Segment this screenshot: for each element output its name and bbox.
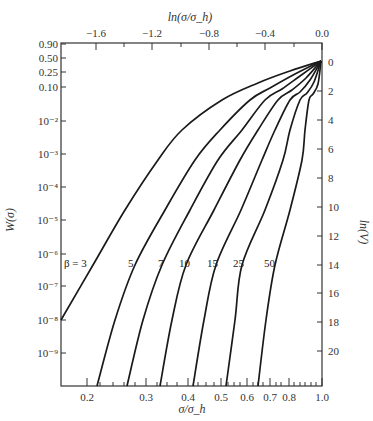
y-right-tick-label: 0 bbox=[328, 56, 334, 68]
top-axis-title: ln(σ/σ_h) bbox=[168, 10, 213, 24]
curve-beta-7 bbox=[127, 61, 321, 386]
y-right-tick-label: 20 bbox=[328, 345, 340, 357]
x-tick-label: 0.6 bbox=[240, 391, 254, 403]
y-tick-label: 0.90 bbox=[39, 38, 59, 50]
curve-label: 25 bbox=[233, 257, 245, 269]
plot-frame bbox=[61, 43, 322, 386]
x-tick-label: 0.7 bbox=[263, 391, 277, 403]
y-tick-label: 0.25 bbox=[39, 66, 59, 78]
curve-beta-5 bbox=[97, 61, 321, 386]
y-tick-label: 10⁻³ bbox=[38, 148, 59, 160]
curve-label: 50 bbox=[264, 257, 276, 269]
plot-border bbox=[61, 43, 322, 386]
curve-beta-3 bbox=[61, 61, 321, 320]
x-top-tick-label: −1.2 bbox=[142, 27, 162, 39]
axis-labels: 0.20.30.40.50.60.70.81.0−1.6−1.2−0.8−0.4… bbox=[37, 27, 339, 403]
y-tick-label: 0.10 bbox=[39, 81, 59, 93]
curve-label: 7 bbox=[158, 257, 164, 269]
curve-label: 5 bbox=[128, 257, 134, 269]
y-tick-label: 10⁻⁶ bbox=[37, 248, 58, 260]
y-tick-label: 10⁻² bbox=[38, 115, 59, 127]
weibull-strength-chart: 0.20.30.40.50.60.70.81.0−1.6−1.2−0.8−0.4… bbox=[0, 0, 373, 421]
y-tick-label: 10⁻⁵ bbox=[37, 214, 58, 226]
x-tick-label: 0.5 bbox=[214, 391, 228, 403]
y-right-tick-label: 18 bbox=[328, 316, 340, 328]
x-top-tick-label: −0.4 bbox=[255, 27, 275, 39]
x-top-tick-label: −1.6 bbox=[86, 27, 106, 39]
beta-curves bbox=[61, 61, 321, 386]
y-right-tick-label: 10 bbox=[328, 201, 340, 213]
x-tick-label: 0.3 bbox=[139, 391, 153, 403]
y-right-tick-label: 14 bbox=[328, 259, 340, 271]
x-top-tick-label: 0.0 bbox=[315, 27, 329, 39]
y-tick-label: 10⁻⁴ bbox=[37, 181, 58, 193]
right-axis-title: ln(V) bbox=[357, 220, 371, 245]
curve-label: 15 bbox=[207, 257, 219, 269]
x-tick-label: 0.8 bbox=[282, 391, 296, 403]
x-tick-label: 1.0 bbox=[315, 391, 329, 403]
y-right-tick-label: 8 bbox=[328, 172, 334, 184]
left-axis-title: W(σ) bbox=[3, 208, 17, 232]
y-right-tick-label: 6 bbox=[328, 143, 334, 155]
curve-label: 10 bbox=[179, 257, 191, 269]
y-tick-label: 10⁻⁹ bbox=[37, 347, 58, 359]
y-right-tick-label: 2 bbox=[328, 85, 334, 97]
y-right-tick-label: 16 bbox=[328, 287, 340, 299]
y-tick-label: 10⁻⁸ bbox=[37, 314, 58, 326]
bottom-axis-title: σ/σ_h bbox=[178, 402, 205, 416]
x-tick-label: 0.2 bbox=[80, 391, 94, 403]
y-right-tick-label: 4 bbox=[328, 114, 334, 126]
x-top-tick-label: −0.8 bbox=[199, 27, 219, 39]
y-right-tick-label: 12 bbox=[328, 230, 339, 242]
curve-label: β = 3 bbox=[64, 257, 87, 269]
curve-beta-50 bbox=[258, 61, 321, 386]
y-tick-label: 0.50 bbox=[39, 52, 59, 64]
y-tick-label: 10⁻⁷ bbox=[37, 280, 58, 292]
